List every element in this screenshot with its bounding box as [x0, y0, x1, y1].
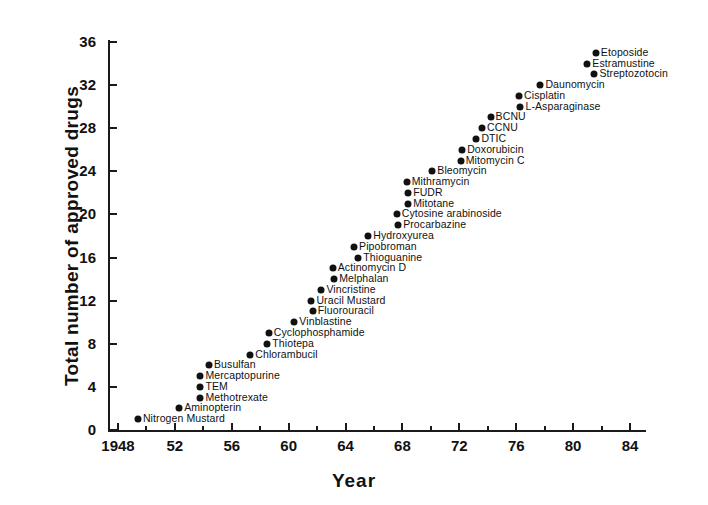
data-point-label: Vincristine — [326, 283, 375, 295]
data-point-label: Uracil Mustard — [316, 294, 385, 306]
data-point-label: Procarbazine — [403, 218, 466, 230]
data-point-label: Methotrexate — [205, 391, 267, 403]
data-point-label: Busulfan — [214, 358, 256, 370]
x-tick-label: 84 — [622, 437, 639, 454]
y-tick-label: 16 — [56, 249, 96, 266]
y-tick-mark — [108, 170, 117, 172]
x-tick-mark — [117, 423, 119, 432]
data-point-label: Thiotepa — [272, 337, 314, 349]
data-point — [308, 297, 315, 304]
y-tick-mark — [108, 343, 117, 345]
x-tick-mark — [288, 423, 290, 432]
y-tick-mark — [108, 213, 117, 215]
x-tick-mark — [401, 423, 403, 432]
data-point-label: Cyclophosphamide — [274, 326, 365, 338]
x-axis-title: Year — [0, 470, 708, 492]
data-point-label: DTIC — [481, 132, 506, 144]
x-tick-label: 80 — [565, 437, 582, 454]
data-point — [584, 60, 591, 67]
data-point — [309, 308, 316, 315]
data-point — [479, 125, 486, 132]
x-tick-mark — [544, 426, 546, 432]
data-point-label: Hydroxyurea — [373, 229, 434, 241]
data-point — [537, 82, 544, 89]
data-point-label: Streptozotocin — [599, 67, 668, 79]
x-tick-mark — [174, 423, 176, 432]
data-point-label: Etoposide — [601, 46, 649, 58]
data-point — [291, 319, 298, 326]
y-tick-label: 8 — [56, 335, 96, 352]
data-point — [197, 383, 204, 390]
data-point-label: Pipobroman — [359, 240, 417, 252]
data-point — [405, 200, 412, 207]
data-point-label: Aminopterin — [184, 401, 241, 413]
x-tick-mark — [430, 426, 432, 432]
x-tick-mark — [145, 426, 147, 432]
data-point-label: Nitrogen Mustard — [143, 412, 225, 424]
data-point-label: Mithramycin — [412, 175, 470, 187]
x-tick-label: 68 — [394, 437, 411, 454]
y-tick-mark — [108, 257, 117, 259]
data-point-label: Mitotane — [413, 197, 454, 209]
data-point — [197, 394, 204, 401]
y-axis-line — [108, 40, 110, 432]
y-tick-label: 32 — [56, 76, 96, 93]
data-point — [318, 286, 325, 293]
data-point — [176, 405, 183, 412]
data-point-label: Fluorouracil — [318, 304, 374, 316]
data-point — [265, 330, 272, 337]
data-point-label: Daunomycin — [545, 78, 604, 90]
y-tick-mark — [108, 300, 117, 302]
data-point — [517, 103, 524, 110]
data-point — [355, 254, 362, 261]
data-point-label: CCNU — [487, 121, 518, 133]
y-tick-label: 24 — [56, 162, 96, 179]
data-point — [487, 114, 494, 121]
data-point — [365, 233, 372, 240]
data-point — [329, 265, 336, 272]
chart-container: Total number of approved drugs 048121620… — [0, 0, 708, 505]
x-tick-mark — [231, 423, 233, 432]
x-tick-label: 64 — [337, 437, 354, 454]
data-point — [264, 340, 271, 347]
x-tick-mark — [345, 423, 347, 432]
y-tick-label: 12 — [56, 292, 96, 309]
data-point — [405, 189, 412, 196]
y-tick-label: 20 — [56, 205, 96, 222]
x-tick-mark — [316, 426, 318, 432]
data-point-label: Melphalan — [339, 272, 388, 284]
x-tick-mark — [629, 423, 631, 432]
y-tick-mark — [108, 429, 117, 431]
data-point-label: FUDR — [413, 186, 443, 198]
data-point — [351, 243, 358, 250]
data-point — [134, 416, 141, 423]
data-point-label: Mercaptopurine — [205, 369, 279, 381]
data-point-label: Thioguanine — [363, 251, 422, 263]
data-point-label: Estramustine — [592, 57, 654, 69]
data-point-label: L-Asparaginase — [525, 100, 600, 112]
data-point — [247, 351, 254, 358]
data-point-label: TEM — [205, 380, 227, 392]
data-point — [206, 362, 213, 369]
data-point-label: Bleomycin — [437, 164, 486, 176]
data-point — [393, 211, 400, 218]
data-point — [457, 157, 464, 164]
data-point — [592, 49, 599, 56]
y-tick-mark — [108, 127, 117, 129]
x-tick-label: 56 — [223, 437, 240, 454]
data-point — [395, 222, 402, 229]
x-tick-label: 52 — [167, 437, 184, 454]
data-point — [473, 136, 480, 143]
x-tick-mark — [458, 423, 460, 432]
data-point-label: Actinomycin D — [338, 261, 406, 273]
data-point-label: Vinblastine — [299, 315, 351, 327]
data-point — [459, 146, 466, 153]
y-tick-label: 0 — [56, 421, 96, 438]
data-point — [429, 168, 436, 175]
data-point-label: Chlorambucil — [255, 348, 317, 360]
x-tick-mark — [572, 423, 574, 432]
x-tick-label: 72 — [451, 437, 468, 454]
x-axis-line — [108, 430, 646, 432]
x-tick-label: 76 — [508, 437, 525, 454]
y-tick-label: 28 — [56, 119, 96, 136]
